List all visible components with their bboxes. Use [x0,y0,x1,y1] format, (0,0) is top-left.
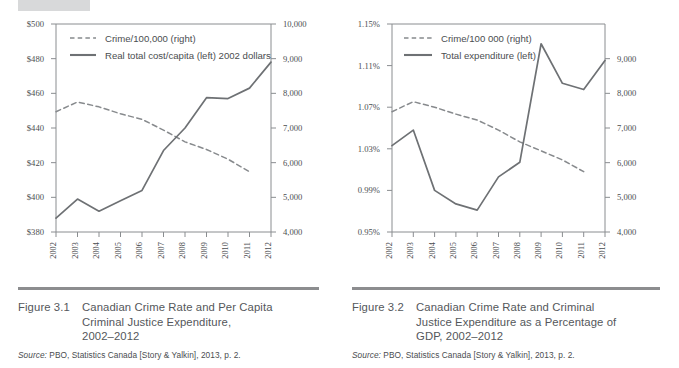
series-line-expenditure [392,44,605,210]
figure-panel-3-1: $380$400$420$440$460$480$5004,0005,0006,… [0,0,339,368]
legend-label: Crime/100,000 (right) [105,33,196,44]
legend-label: Crime/100 000 (right) [441,33,532,44]
x-axis-tick-label: 2012 [598,242,607,259]
legend-label: Total expenditure (left) [441,50,536,61]
left-axis-tick-label: $480 [27,54,44,64]
x-axis-tick-label: 2004 [428,241,437,259]
x-axis-tick-label: 2011 [577,242,586,258]
figure-number-3-1: Figure 3.1 [18,300,73,344]
figure-title-3-2: Canadian Crime Rate and Criminal Justice… [416,300,672,344]
figure-caption-3-2: Figure 3.2 Canadian Crime Rate and Crimi… [352,300,672,344]
x-axis-tick-label: 2003 [71,242,80,259]
figure-panel-3-2: 0.95%0.99%1.03%1.07%1.11%1.15%4,0005,000… [340,0,679,368]
caption-rule-3-2 [352,287,660,290]
source-label: Source: [18,350,47,360]
left-axis-tick-label: $380 [27,227,44,237]
figure-number-3-2: Figure 3.2 [352,300,407,344]
x-axis-tick-label: 2003 [406,242,415,259]
right-axis-tick-label: 5,000 [283,192,302,202]
left-axis-tick-label: 1.15% [358,19,380,29]
figure-title-3-1: Canadian Crime Rate and Per Capita Crimi… [82,300,323,344]
right-axis-tick-label: 6,000 [283,158,302,168]
left-axis-tick-label: $440 [27,123,44,133]
x-axis-tick-label: 2008 [178,242,187,259]
x-axis-tick-label: 2006 [470,242,479,259]
x-axis-tick-label: 2010 [221,242,230,259]
left-axis-tick-label: 1.11% [358,61,380,71]
left-axis-tick-label: $420 [27,158,44,168]
figure-source-3-1: Source: PBO, Statistics Canada [Story & … [18,350,328,360]
x-axis-tick-label: 2008 [513,242,522,259]
figure-title-line: 2002–2012 [82,329,323,344]
right-axis-tick-label: 9,000 [617,54,636,64]
right-axis-tick-label: 7,000 [283,123,302,133]
chart-3-1-canvas: $380$400$420$440$460$480$5004,0005,0006,… [0,0,339,278]
x-axis-tick-label: 2002 [49,242,58,259]
figure-title-line: GDP, 2002–2012 [416,329,672,344]
right-axis-tick-label: 5,000 [617,192,636,202]
source-text: PBO, Statistics Canada [Story & Yalkin],… [49,350,240,360]
chart-3-2: 0.95%0.99%1.03%1.07%1.11%1.15%4,0005,000… [340,0,679,278]
right-axis-tick-label: 9,000 [283,54,302,64]
x-axis-tick-label: 2002 [385,242,394,259]
left-axis-tick-label: 0.99% [358,185,380,195]
legend-label: Real total cost/capita (left) 2002 dolla… [105,50,271,61]
right-axis-tick-label: 8,000 [283,88,302,98]
figure-title-line: Criminal Justice Expenditure, [82,315,323,330]
right-axis-tick-label: 4,000 [283,227,302,237]
left-axis-tick-label: $500 [27,19,44,29]
figure-title-line: Canadian Crime Rate and Per Capita [82,300,323,315]
x-axis-tick-label: 2007 [157,242,166,259]
source-text: PBO, Statistics Canada [Story & Yalkin],… [383,350,574,360]
x-axis-tick-label: 2006 [135,242,144,259]
x-axis-tick-label: 2009 [200,242,209,259]
x-axis-tick-label: 2010 [555,242,564,259]
figure-caption-3-1: Figure 3.1 Canadian Crime Rate and Per C… [18,300,323,344]
x-axis-tick-label: 2012 [264,242,273,259]
series-line-crime-rate [56,102,250,172]
caption-rule-3-1 [18,287,319,290]
left-axis-tick-label: 1.03% [358,144,380,154]
left-axis-tick-label: $460 [27,88,44,98]
figure-source-3-2: Source: PBO, Statistics Canada [Story & … [352,350,667,360]
x-axis-tick-label: 2005 [449,242,458,259]
right-axis-tick-label: 10,000 [283,19,307,29]
figure-page: $380$400$420$440$460$480$5004,0005,0006,… [0,0,679,368]
left-axis-tick-label: 1.07% [358,102,380,112]
source-label: Source: [352,350,381,360]
series-line-crime-rate [392,102,584,172]
x-axis-tick-label: 2011 [243,242,252,258]
left-axis-tick-label: 0.95% [358,227,380,237]
right-axis-tick-label: 6,000 [617,158,636,168]
right-axis-tick-label: 8,000 [617,88,636,98]
series-line-expenditure [56,62,271,218]
x-axis-tick-label: 2004 [92,241,101,259]
left-axis-tick-label: $400 [27,192,44,202]
x-axis-tick-label: 2009 [534,242,543,259]
x-axis-tick-label: 2005 [114,242,123,259]
figure-title-line: Justice Expenditure as a Percentage of [416,315,672,330]
chart-3-2-canvas: 0.95%0.99%1.03%1.07%1.11%1.15%4,0005,000… [340,0,679,278]
figure-title-line: Canadian Crime Rate and Criminal [416,300,672,315]
chart-3-1: $380$400$420$440$460$480$5004,0005,0006,… [0,0,339,278]
right-axis-tick-label: 4,000 [617,227,636,237]
right-axis-tick-label: 7,000 [617,123,636,133]
x-axis-tick-label: 2007 [492,242,501,259]
